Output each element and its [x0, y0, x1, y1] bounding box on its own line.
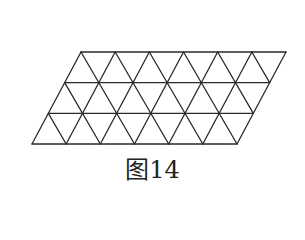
diagonal-grid-line: [252, 52, 270, 83]
figure-caption: 图14: [0, 150, 305, 185]
diagonal-grid-line: [48, 113, 66, 144]
